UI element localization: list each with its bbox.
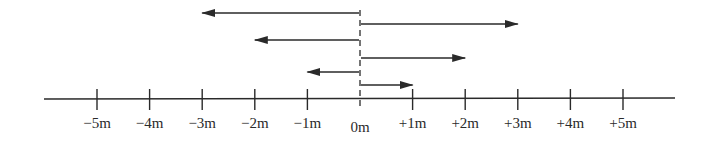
- tick-label: +3m: [504, 115, 532, 131]
- axis-tick-labels: −5m−4m−3m−2m−1m0m+1m+2m+3m+4m+5m: [83, 115, 637, 135]
- tick-label: −3m: [188, 115, 216, 131]
- tick-label: −4m: [136, 115, 164, 131]
- tick-label: −2m: [241, 115, 269, 131]
- axis-line: [44, 98, 675, 99]
- tick-label: +4m: [557, 115, 585, 131]
- tick-label: −1m: [294, 115, 322, 131]
- tick-label: +1m: [399, 115, 427, 131]
- tick-label: +2m: [451, 115, 479, 131]
- tick-label: 0m: [350, 119, 370, 135]
- number-line-diagram: −5m−4m−3m−2m−1m0m+1m+2m+3m+4m+5m: [0, 0, 716, 150]
- tick-label: −5m: [83, 115, 111, 131]
- tick-label: +5m: [609, 115, 637, 131]
